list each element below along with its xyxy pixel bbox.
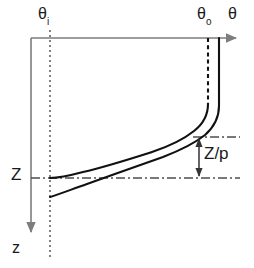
label-theta-i: θi: [38, 6, 49, 25]
label-theta-o: θo: [197, 6, 211, 25]
label-theta-i-subscript: i: [47, 16, 49, 27]
label-theta-o-subscript: o: [206, 16, 212, 27]
label-theta-o-base: θ: [197, 5, 206, 22]
label-z-over-p: Z/p: [204, 145, 229, 162]
temperature-depth-plot: [0, 0, 254, 268]
figure-container: θi θo θ Z z Z/p: [0, 0, 254, 268]
label-theta-axis: θ: [228, 6, 237, 22]
dashed-profile-curve-lower: [50, 104, 208, 178]
profile-curves-group: [50, 38, 219, 197]
label-depth-Z: Z: [11, 166, 21, 183]
label-depth-axis: z: [12, 240, 20, 256]
label-theta-i-base: θ: [38, 5, 47, 22]
